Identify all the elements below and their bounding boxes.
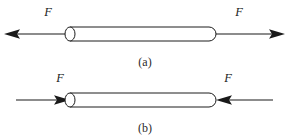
panel-b-rod-body xyxy=(70,93,216,107)
rod-force-diagram: F F (a) F F (b) xyxy=(0,0,290,139)
panel-a: F F (a) xyxy=(4,5,285,69)
panel-a-left-force-label: F xyxy=(43,5,52,19)
panel-b-left-force-label: F xyxy=(55,71,64,85)
figure-container: F F (a) F F (b) xyxy=(0,0,290,139)
panel-a-caption: (a) xyxy=(138,55,151,69)
panel-b-rod-left-end-ellipse xyxy=(65,93,75,107)
panel-b-right-force-label: F xyxy=(223,71,232,85)
panel-b: F F (b) xyxy=(16,71,273,135)
panel-a-rod-left-end-ellipse xyxy=(65,27,75,41)
panel-a-right-force-label: F xyxy=(234,5,243,19)
panel-b-caption: (b) xyxy=(138,121,152,135)
panel-a-rod-body xyxy=(70,27,216,41)
